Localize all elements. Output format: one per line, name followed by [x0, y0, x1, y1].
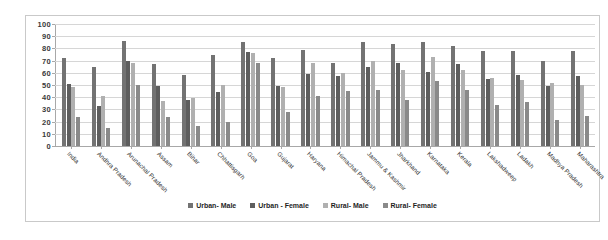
x-label-slot: Chhattisgarh: [206, 148, 236, 206]
x-label-slot: Gujarat: [266, 148, 296, 206]
bar: [486, 79, 490, 146]
bar: [92, 67, 96, 146]
bar: [550, 83, 554, 146]
bar: [276, 86, 280, 146]
bar: [101, 96, 105, 146]
bar: [371, 61, 375, 146]
x-label-slot: Jammu & Kashmir: [356, 148, 386, 206]
x-axis-label: India: [66, 150, 81, 165]
x-label-slot: Kerala: [446, 148, 476, 206]
bar: [126, 61, 130, 146]
bar: [391, 44, 395, 146]
bar: [361, 42, 365, 146]
bar: [216, 92, 220, 146]
bar: [286, 112, 290, 146]
bar: [426, 72, 430, 146]
bar: [421, 42, 425, 146]
x-label-slot: Himachal Pradesh: [326, 148, 356, 206]
x-label-slot: Maharashtra: [566, 148, 596, 206]
legend-label: Rural- Male: [331, 202, 369, 209]
bar-group: [296, 24, 326, 146]
bar: [576, 76, 580, 146]
bar: [516, 75, 520, 146]
bar: [306, 74, 310, 146]
x-axis-label: Bihar: [186, 150, 202, 166]
legend-item[interactable]: Urban- Male: [188, 202, 236, 209]
y-tick-mark-90: [52, 36, 55, 37]
y-tick-label-30: 30: [42, 105, 51, 114]
x-axis-label: Haryana: [306, 150, 328, 172]
bar: [396, 63, 400, 146]
bar: [281, 87, 285, 146]
bar: [301, 50, 305, 146]
x-label-slot: Madhya Pradesh: [536, 148, 566, 206]
bar: [481, 51, 485, 146]
bar-group: [236, 24, 266, 146]
bar-group: [266, 24, 296, 146]
bar: [451, 46, 455, 146]
y-tick-label-80: 80: [42, 44, 51, 53]
bar-group: [475, 24, 505, 146]
bar-group: [86, 24, 116, 146]
bar: [456, 64, 460, 146]
legend-swatch-icon: [323, 203, 328, 208]
bar-group: [565, 24, 595, 146]
bar: [511, 51, 515, 146]
y-tick-mark-70: [52, 61, 55, 62]
bar: [246, 52, 250, 146]
y-tick-label-50: 50: [42, 81, 51, 90]
y-tick-mark-30: [52, 109, 55, 110]
bar: [186, 100, 190, 146]
bar: [336, 76, 340, 146]
y-tick-label-70: 70: [42, 56, 51, 65]
bar: [97, 106, 101, 146]
legend-swatch-icon: [250, 203, 255, 208]
bar-group: [385, 24, 415, 146]
bar: [76, 117, 80, 146]
y-tick-mark-0: [52, 146, 55, 147]
bar-group: [176, 24, 206, 146]
bar: [401, 70, 405, 146]
bar: [571, 51, 575, 146]
bar: [221, 85, 225, 146]
bar: [226, 122, 230, 146]
bar: [525, 102, 529, 146]
bar: [136, 85, 140, 146]
x-axis-label: Kerala: [456, 150, 474, 168]
bar: [331, 63, 335, 146]
legend-swatch-icon: [383, 203, 388, 208]
bar-group: [325, 24, 355, 146]
x-label-slot: India: [56, 148, 86, 206]
plot-area: 0102030405060708090100: [55, 24, 595, 146]
bar: [431, 57, 435, 146]
y-tick-mark-50: [52, 85, 55, 86]
x-axis-label: Ladakh: [516, 150, 536, 170]
legend-item[interactable]: Rural- Male: [323, 202, 369, 209]
legend-item[interactable]: Rural- Female: [383, 202, 437, 209]
legend-label: Urban - Female: [258, 202, 309, 209]
x-label-slot: Goa: [236, 148, 266, 206]
bar: [366, 67, 370, 146]
bar: [520, 80, 524, 146]
x-label-slot: Arunachal Pradesh: [116, 148, 146, 206]
chart-legend: Urban- MaleUrban - FemaleRural- MaleRura…: [26, 202, 599, 209]
x-label-slot: Andhra Pradesh: [86, 148, 116, 206]
y-tick-label-40: 40: [42, 93, 51, 102]
bar: [580, 85, 584, 146]
bar-group: [355, 24, 385, 146]
y-tick-label-10: 10: [42, 129, 51, 138]
bar: [106, 128, 110, 146]
bar: [376, 90, 380, 146]
legend-label: Rural- Female: [391, 202, 437, 209]
bar: [256, 63, 260, 146]
bar: [191, 98, 195, 146]
bar: [182, 75, 186, 146]
bar: [241, 42, 245, 146]
bar: [346, 91, 350, 146]
bar: [405, 100, 409, 146]
bar: [71, 87, 75, 146]
legend-swatch-icon: [188, 203, 193, 208]
legend-item[interactable]: Urban - Female: [250, 202, 309, 209]
bar: [316, 96, 320, 146]
bar: [461, 70, 465, 146]
